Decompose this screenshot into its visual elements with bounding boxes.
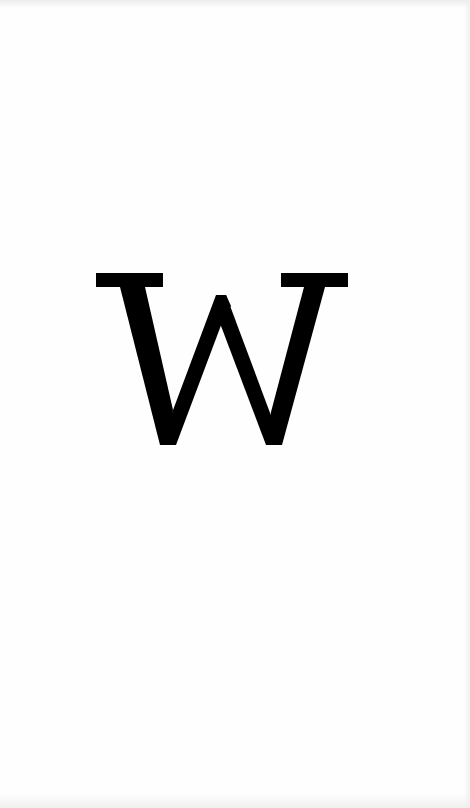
right-serif <box>281 273 348 287</box>
w-logo-icon <box>0 0 470 808</box>
left-serif <box>96 273 163 287</box>
left-stroke <box>120 287 173 445</box>
right-stroke <box>266 287 325 445</box>
logo-card: W <box>0 0 470 808</box>
